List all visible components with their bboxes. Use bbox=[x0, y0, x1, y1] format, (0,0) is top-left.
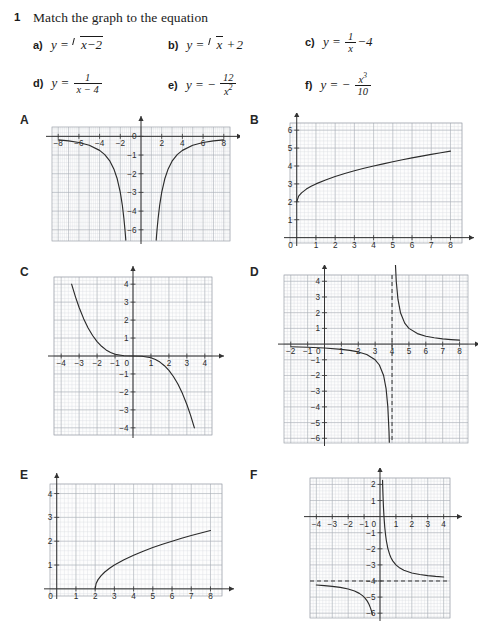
y-tick-label: −3 bbox=[119, 406, 129, 415]
x-tick-label: 8 bbox=[222, 139, 227, 148]
graph-svg-d: −2−112345678−6−5−4−3−2−112340 bbox=[250, 265, 478, 450]
y-tick-label: 2 bbox=[48, 537, 53, 546]
fraction-x-cubed-over-10: x3 10 bbox=[355, 72, 372, 97]
y-tick-label: 4 bbox=[315, 277, 320, 286]
equation-f: f) y = − x3 10 bbox=[305, 72, 372, 97]
equation-f-body: y = − x3 10 bbox=[320, 77, 372, 92]
fraction-1-over-x-minus-4: 1 x − 4 bbox=[74, 72, 102, 95]
graph-panel-f: F−4−3−2−11234−6−5−4−3−2−1120 bbox=[250, 468, 478, 628]
equation-b-label: b) bbox=[168, 39, 178, 51]
y-tick-label: 2 bbox=[371, 480, 376, 489]
y-tick-label: −1 bbox=[127, 151, 137, 160]
equation-d-label: d) bbox=[33, 77, 43, 89]
x-tick-label: 8 bbox=[457, 347, 462, 356]
x-tick-label: 3 bbox=[112, 592, 117, 601]
fraction-numerator: 12 bbox=[220, 72, 237, 83]
origin-label: 0 bbox=[371, 520, 376, 529]
x-tick-label: 2 bbox=[159, 139, 164, 148]
x-tick-label: 1 bbox=[339, 347, 344, 356]
radical-icon: x bbox=[208, 36, 224, 53]
y-tick-label: −3 bbox=[366, 561, 376, 570]
origin-label: 0 bbox=[48, 592, 53, 601]
x-tick-label: 6 bbox=[170, 592, 175, 601]
y-tick-label: 3 bbox=[288, 180, 293, 189]
fraction-numerator: 1 bbox=[74, 72, 102, 83]
fraction-denominator: 10 bbox=[355, 85, 372, 97]
y-tick-label: 2 bbox=[315, 309, 320, 318]
fraction-denominator: x bbox=[345, 42, 356, 54]
x-tick-label: 6 bbox=[201, 139, 206, 148]
x-tick-label: 3 bbox=[425, 520, 430, 529]
x-tick-label: 7 bbox=[440, 347, 445, 356]
graph-panel-b: B123456781234560 bbox=[250, 113, 475, 253]
origin-label: 0 bbox=[316, 347, 321, 356]
equation-a: a) y = x−2 bbox=[33, 36, 103, 53]
y-tick-label: −1 bbox=[366, 529, 376, 538]
graph-label-c: C bbox=[20, 265, 29, 279]
equation-b: b) y = x + 2 bbox=[168, 36, 243, 53]
equation-f-label: f) bbox=[305, 79, 312, 91]
equation-a-body: y = x−2 bbox=[51, 37, 103, 52]
graph-panel-e: E1234567812340 bbox=[20, 468, 240, 618]
equation-d: d) y = 1 x − 4 bbox=[33, 72, 103, 95]
y-tick-label: 3 bbox=[124, 298, 129, 307]
y-tick-label: 5 bbox=[288, 144, 293, 153]
fraction-denominator: x2 bbox=[220, 83, 237, 97]
fraction-numerator: x3 bbox=[355, 72, 372, 85]
y-tick-label: −2 bbox=[119, 388, 129, 397]
y-tick-label: −2 bbox=[127, 170, 137, 179]
y-tick-label: −1 bbox=[119, 370, 129, 379]
origin-label: 0 bbox=[124, 359, 129, 368]
y-tick-label: −6 bbox=[311, 434, 321, 443]
y-tick-label: −2 bbox=[366, 545, 376, 554]
y-tick-label: −3 bbox=[127, 188, 137, 197]
y-tick-label: 3 bbox=[48, 513, 53, 522]
question-title: Match the graph to the equation bbox=[33, 10, 208, 26]
x-tick-label: −2 bbox=[286, 347, 296, 356]
equation-d-body: y = 1 x − 4 bbox=[52, 75, 103, 90]
y-tick-label: −2 bbox=[311, 371, 321, 380]
equation-e-body: y = − 12 x2 bbox=[186, 77, 238, 92]
graph-label-a: A bbox=[20, 113, 29, 127]
y-tick-label: 4 bbox=[48, 490, 53, 499]
radical-icon: x−2 bbox=[72, 36, 103, 53]
graph-svg-e: 1234567812340 bbox=[20, 468, 240, 618]
x-tick-label: 3 bbox=[373, 347, 378, 356]
equation-a-label: a) bbox=[33, 39, 43, 51]
y-tick-label: −4 bbox=[119, 424, 129, 433]
x-tick-label: 4 bbox=[131, 592, 136, 601]
x-tick-label: 7 bbox=[429, 241, 434, 250]
x-tick-label: 5 bbox=[151, 592, 156, 601]
x-tick-label: −1 bbox=[110, 359, 120, 368]
x-tick-label: −3 bbox=[74, 359, 84, 368]
x-tick-label: −2 bbox=[344, 520, 354, 529]
x-tick-label: 8 bbox=[448, 241, 453, 250]
graph-label-d: D bbox=[250, 265, 259, 279]
x-tick-label: 1 bbox=[314, 241, 319, 250]
graph-svg-c: −4−3−2−11234−4−3−2−112340 bbox=[20, 265, 240, 440]
y-tick-label: 1 bbox=[124, 334, 129, 343]
y-tick-label: 4 bbox=[124, 280, 129, 289]
graph-svg-f: −4−3−2−11234−6−5−4−3−2−1120 bbox=[250, 468, 478, 628]
fraction-1-over-x: 1 x bbox=[345, 31, 356, 54]
y-tick-label: −4 bbox=[311, 403, 321, 412]
x-tick-label: 7 bbox=[189, 592, 194, 601]
question-header: 1 Match the graph to the equation a) y =… bbox=[0, 0, 486, 108]
graph-svg-a: −8−6−4−224680−1−2−3−4−6 bbox=[20, 113, 240, 248]
x-tick-label: 1 bbox=[74, 592, 79, 601]
y-tick-label: 4 bbox=[288, 162, 293, 171]
y-tick-label: 6 bbox=[288, 126, 293, 135]
graph-panel-c: C−4−3−2−11234−4−3−2−112340 bbox=[20, 265, 240, 440]
question-number: 1 bbox=[14, 11, 20, 23]
x-tick-label: −4 bbox=[95, 139, 105, 148]
y-tick-label: 1 bbox=[371, 497, 376, 506]
x-tick-label: 2 bbox=[167, 359, 172, 368]
equation-b-body: y = x + 2 bbox=[187, 37, 243, 52]
y-tick-label: −5 bbox=[311, 419, 321, 428]
x-tick-label: 1 bbox=[149, 359, 154, 368]
x-tick-label: 2 bbox=[410, 520, 415, 529]
y-tick-label: 0 bbox=[132, 132, 137, 141]
y-tick-label: 1 bbox=[48, 561, 53, 570]
graph-panel-d: D−2−112345678−6−5−4−3−2−112340 bbox=[250, 265, 478, 450]
x-tick-label: 8 bbox=[208, 592, 213, 601]
